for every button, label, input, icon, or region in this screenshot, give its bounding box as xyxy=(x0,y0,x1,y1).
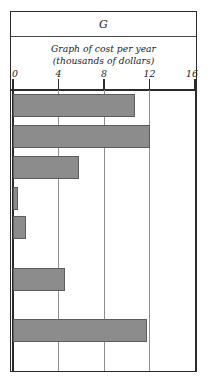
x-axis-tick-0 xyxy=(12,79,13,90)
bar-1 xyxy=(13,94,135,117)
bar-5 xyxy=(13,216,26,239)
bar-7 xyxy=(13,319,147,342)
subtitle-band: Graph of cost per year (thousands of dol… xyxy=(11,37,196,71)
x-axis-tick-label-0: 0 xyxy=(12,68,18,79)
x-axis-tick-16 xyxy=(194,79,195,90)
figure-frame: G Graph of cost per year (thousands of d… xyxy=(10,11,197,372)
title-band: G xyxy=(11,12,196,37)
chart-subtitle-line-2: (thousands of dollars) xyxy=(53,55,155,67)
x-axis-tick-label-16: 16 xyxy=(186,68,198,79)
bar-4 xyxy=(13,187,18,210)
gridline-16 xyxy=(195,90,196,371)
x-axis-tick-label-12: 12 xyxy=(144,68,156,79)
plot-area xyxy=(11,90,196,371)
page-title: G xyxy=(99,18,108,31)
x-axis-tick-8 xyxy=(103,79,104,90)
x-axis: 0481216 xyxy=(11,71,196,90)
bar-3 xyxy=(13,156,79,179)
x-axis-tick-label-4: 4 xyxy=(56,68,62,79)
x-axis-tick-4 xyxy=(58,79,59,90)
bar-2 xyxy=(13,125,150,148)
x-axis-tick-12 xyxy=(149,79,150,90)
chart-subtitle-line-1: Graph of cost per year xyxy=(51,43,156,55)
bar-6 xyxy=(13,268,65,291)
x-axis-tick-label-8: 8 xyxy=(101,68,107,79)
